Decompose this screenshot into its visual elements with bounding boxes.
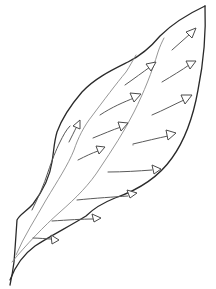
inner-vein-middle — [16, 55, 136, 255]
arrow-icon — [78, 146, 105, 160]
leaf-sketch — [0, 0, 216, 289]
inner-vein-main — [12, 38, 164, 262]
arrow-icon — [152, 95, 192, 115]
arrow-icon — [93, 122, 128, 138]
arrow-icon — [100, 93, 141, 115]
arrow-icon — [108, 165, 161, 174]
arrow-icon — [52, 214, 101, 222]
arrow-icon — [133, 130, 176, 144]
arrow-icon — [77, 190, 137, 200]
arrow-icon — [172, 28, 196, 50]
flow-arrows — [33, 28, 196, 244]
arrow-icon — [162, 61, 196, 82]
